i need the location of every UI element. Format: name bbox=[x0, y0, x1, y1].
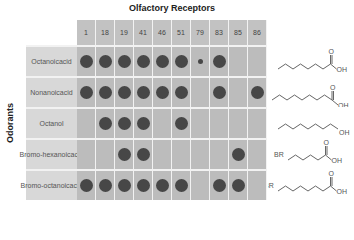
receptor-header: 85 bbox=[229, 20, 248, 45]
svg-text:O: O bbox=[330, 84, 336, 91]
response-cell bbox=[77, 107, 96, 138]
response-cell bbox=[210, 107, 229, 138]
strong-response-dot bbox=[137, 86, 150, 99]
response-cell bbox=[248, 76, 267, 107]
strong-response-dot bbox=[99, 117, 112, 130]
response-cell bbox=[77, 169, 96, 200]
response-cell bbox=[210, 45, 229, 76]
odorant-label-line: Octanol bbox=[39, 119, 63, 128]
strong-response-dot bbox=[251, 86, 264, 99]
receptor-header: 83 bbox=[210, 20, 229, 45]
response-cell bbox=[210, 169, 229, 200]
response-cell bbox=[96, 45, 115, 76]
strong-response-dot bbox=[232, 148, 245, 161]
response-cell bbox=[210, 138, 229, 169]
receptor-header: 46 bbox=[153, 20, 172, 45]
response-cell bbox=[153, 45, 172, 76]
strong-response-dot bbox=[80, 179, 93, 192]
svg-text:OH: OH bbox=[337, 188, 348, 195]
response-cell bbox=[248, 107, 267, 138]
response-cell bbox=[229, 107, 248, 138]
strong-response-dot bbox=[118, 55, 131, 68]
svg-text:OH: OH bbox=[339, 129, 350, 136]
response-cell bbox=[96, 169, 115, 200]
receptor-header: 18 bbox=[96, 20, 115, 45]
svg-text:BR: BR bbox=[268, 182, 274, 189]
odorant-label-line: acid bbox=[59, 57, 72, 66]
strong-response-dot bbox=[137, 148, 150, 161]
response-cell bbox=[77, 45, 96, 76]
strong-response-dot bbox=[232, 179, 245, 192]
response-matrix: 1181941465179838586OctanoicacidNonanoica… bbox=[26, 20, 267, 200]
response-cell bbox=[210, 76, 229, 107]
odorant-label-line: Bromo- bbox=[21, 181, 44, 190]
response-cell bbox=[172, 107, 191, 138]
nonanoic-acid-structure-icon: OOH bbox=[268, 76, 354, 107]
svg-text:BR: BR bbox=[274, 151, 284, 158]
response-cell bbox=[96, 107, 115, 138]
response-cell bbox=[77, 76, 96, 107]
strong-response-dot bbox=[99, 179, 112, 192]
response-cell bbox=[191, 45, 210, 76]
odorant-label-line: Octanoic bbox=[31, 57, 59, 66]
response-cell bbox=[115, 45, 134, 76]
response-cell bbox=[153, 107, 172, 138]
response-cell bbox=[191, 107, 210, 138]
odorant-label: Nonanoicacid bbox=[26, 76, 77, 107]
strong-response-dot bbox=[175, 117, 188, 130]
response-cell bbox=[191, 138, 210, 169]
response-cell bbox=[77, 138, 96, 169]
odorant-label-line: octanoic bbox=[44, 181, 70, 190]
strong-response-dot bbox=[213, 55, 226, 68]
response-cell bbox=[134, 45, 153, 76]
strong-response-dot bbox=[137, 117, 150, 130]
weak-response-dot bbox=[198, 59, 203, 64]
strong-response-dot bbox=[80, 55, 93, 68]
response-cell bbox=[96, 76, 115, 107]
response-cell bbox=[134, 138, 153, 169]
response-cell bbox=[134, 107, 153, 138]
strong-response-dot bbox=[156, 55, 169, 68]
corner-cell bbox=[26, 20, 77, 45]
odorant-label-line: acid bbox=[60, 88, 73, 97]
response-cell bbox=[229, 45, 248, 76]
strong-response-dot bbox=[118, 117, 131, 130]
receptor-header: 41 bbox=[134, 20, 153, 45]
response-cell bbox=[229, 169, 248, 200]
response-cell bbox=[172, 138, 191, 169]
receptor-header: 51 bbox=[172, 20, 191, 45]
strong-response-dot bbox=[213, 86, 226, 99]
strong-response-dot bbox=[137, 55, 150, 68]
response-cell bbox=[115, 107, 134, 138]
svg-text:O: O bbox=[324, 139, 330, 146]
strong-response-dot bbox=[156, 86, 169, 99]
strong-response-dot bbox=[156, 179, 169, 192]
response-cell bbox=[153, 76, 172, 107]
strong-response-dot bbox=[118, 179, 131, 192]
svg-text:O: O bbox=[329, 48, 335, 55]
odorant-label: Octanoicacid bbox=[26, 45, 77, 76]
odorant-label-line: Bromo- bbox=[20, 150, 43, 159]
receptor-header: 1 bbox=[77, 20, 96, 45]
odorant-label-line: hexanoic bbox=[43, 150, 71, 159]
response-cell bbox=[172, 169, 191, 200]
response-cell bbox=[134, 169, 153, 200]
response-cell bbox=[248, 138, 267, 169]
strong-response-dot bbox=[118, 148, 131, 161]
response-cell bbox=[134, 76, 153, 107]
bromohexanoic-acid-structure-icon: BROOH bbox=[268, 138, 354, 169]
receptor-header: 79 bbox=[191, 20, 210, 45]
response-cell bbox=[172, 45, 191, 76]
strong-response-dot bbox=[175, 86, 188, 99]
strong-response-dot bbox=[175, 55, 188, 68]
svg-text:OH: OH bbox=[332, 157, 343, 164]
y-axis-label: Odorants bbox=[5, 103, 15, 143]
octanol-structure-icon: OH bbox=[268, 107, 354, 138]
odorant-label: Octanol bbox=[26, 107, 77, 138]
response-cell bbox=[229, 76, 248, 107]
strong-response-dot bbox=[80, 86, 93, 99]
strong-response-dot bbox=[99, 55, 112, 68]
response-cell bbox=[248, 169, 267, 200]
strong-response-dot bbox=[118, 86, 131, 99]
response-cell bbox=[248, 45, 267, 76]
